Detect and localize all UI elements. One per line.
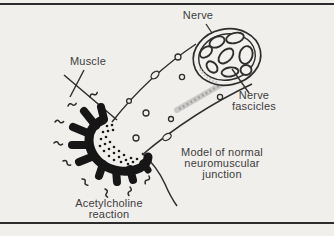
terminal-finger: [101, 107, 104, 119]
acetylcholine-label: Acetylcholine reaction: [75, 198, 142, 220]
nerve-label: Nerve: [183, 10, 213, 21]
terminal-finger: [143, 163, 148, 170]
terminal-finger: [116, 170, 117, 182]
terminal-stipple-dots: [99, 124, 139, 166]
terminal-finger: [84, 111, 96, 126]
neuromuscular-junction-diagram: [0, 0, 334, 236]
nerve-label-text: Nerve: [183, 10, 213, 21]
terminal-finger: [79, 156, 94, 162]
terminal-finger: [99, 164, 103, 176]
nerve-cross-section: [188, 23, 266, 92]
muscle-label-text: Muscle: [70, 56, 106, 67]
muscle-leader-line: [70, 70, 84, 97]
muscle-label: Muscle: [70, 56, 106, 67]
fascicle: [241, 65, 252, 75]
caption-line3: junction: [181, 169, 263, 180]
scanned-figure-page: Nerve Muscle Nerve fascicles Model of no…: [0, 0, 334, 236]
nerve-fascicles-line2: fascicles: [232, 101, 276, 112]
figure-caption: Model of normal neuromuscular junction: [181, 147, 263, 180]
nerve-leader-line: [206, 24, 212, 33]
nerve-fascicles-label: Nerve fascicles: [232, 90, 276, 112]
terminal-finger: [130, 169, 133, 180]
acetylcholine-line2: reaction: [75, 209, 142, 220]
nerve-trunk-top-edge: [112, 44, 196, 122]
axon-terminal: [72, 107, 148, 182]
